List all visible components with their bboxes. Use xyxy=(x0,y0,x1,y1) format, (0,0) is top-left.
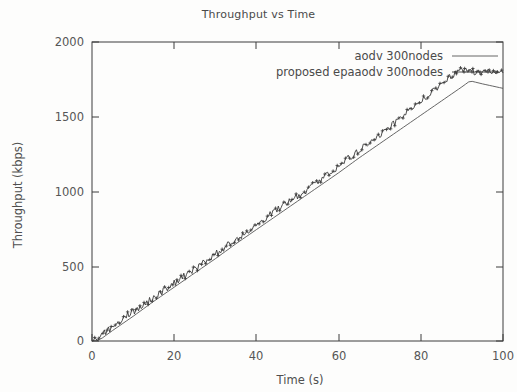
legend-item-epaaodv-label: proposed epaaodv 300nodes xyxy=(276,65,443,79)
series-path-epaaodv xyxy=(92,68,503,341)
series-path-aodv xyxy=(92,81,503,341)
y-tick-label-500: 500 xyxy=(62,260,84,274)
x-tick-label-60: 60 xyxy=(332,349,347,363)
series-markers-epaaodv xyxy=(93,66,503,340)
y-tick-label-1500: 1500 xyxy=(55,110,84,124)
x-tick-label-0: 0 xyxy=(88,349,95,363)
x-tick-label-100: 100 xyxy=(492,349,514,363)
y-tick-label-1000: 1000 xyxy=(55,185,84,199)
x-tick-label-20: 20 xyxy=(167,349,182,363)
throughput-line-chart: 2000 1500 1000 500 0 0 20 40 60 80 100 T… xyxy=(0,0,517,392)
series-layer xyxy=(92,66,503,341)
x-tick-label-40: 40 xyxy=(249,349,264,363)
chart-page: Throughput vs Time xyxy=(0,0,517,392)
legend-item-aodv-label: aodv 300nodes xyxy=(355,49,444,63)
y-axis-title: Throughput (kbps) xyxy=(11,142,25,250)
x-axis-title: Time (s) xyxy=(276,373,324,387)
x-tick-label-80: 80 xyxy=(414,349,429,363)
y-tick-label-2000: 2000 xyxy=(55,35,84,49)
legend: aodv 300nodes proposed epaaodv 300nodes xyxy=(276,49,498,79)
y-tick-label-0: 0 xyxy=(77,334,84,348)
